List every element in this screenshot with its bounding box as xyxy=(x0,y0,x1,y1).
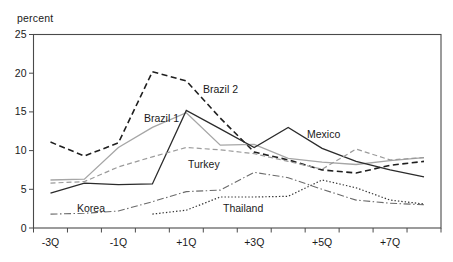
y-tick-label: 0 xyxy=(21,222,27,234)
y-tick-label: 20 xyxy=(15,67,27,79)
plot-frame xyxy=(34,35,442,229)
line-chart: 0510152025-3Q-1Q+1Q+3Q+5Q+7QBrazil 2Braz… xyxy=(0,0,453,262)
series-line-turkey xyxy=(51,148,425,184)
series-label-mexico: Mexico xyxy=(307,128,340,140)
series-line-thailand xyxy=(152,180,424,214)
x-tick-label: +5Q xyxy=(312,236,332,248)
y-tick-label: 25 xyxy=(15,28,27,40)
x-tick-label: +3Q xyxy=(244,236,264,248)
y-tick-label: 15 xyxy=(15,105,27,117)
y-tick-label: 10 xyxy=(15,144,27,156)
chart-panel: percent 0510152025-3Q-1Q+1Q+3Q+5Q+7QBraz… xyxy=(0,0,453,262)
x-tick-label: +1Q xyxy=(176,236,196,248)
series-label-brazil-1: Brazil 1 xyxy=(144,112,179,124)
series-label-turkey: Turkey xyxy=(188,158,220,170)
series-label-korea: Korea xyxy=(77,202,105,214)
series-label-brazil-2: Brazil 2 xyxy=(203,83,238,95)
x-tick-label: -3Q xyxy=(42,236,60,248)
x-tick-label: -1Q xyxy=(110,236,128,248)
series-label-thailand: Thailand xyxy=(223,202,263,214)
x-tick-label: +7Q xyxy=(380,236,400,248)
y-tick-label: 5 xyxy=(21,183,27,195)
